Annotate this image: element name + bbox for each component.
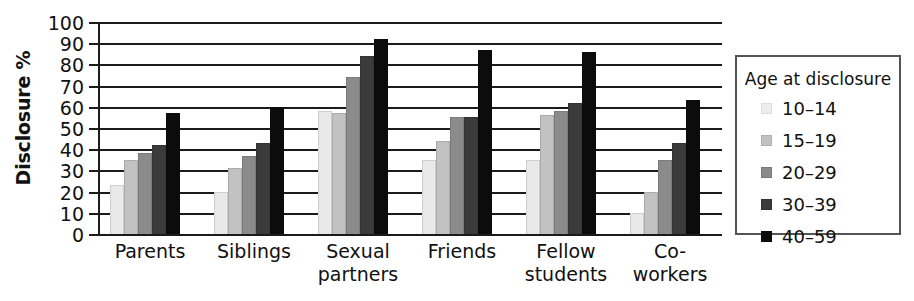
bar-group-bars	[110, 22, 180, 234]
bar-group	[306, 22, 410, 234]
bar	[464, 117, 478, 234]
bar-group-bars	[526, 22, 596, 234]
legend-entry: 40–59	[737, 226, 899, 247]
legend-entry-label: 30–39	[782, 194, 837, 215]
bar	[270, 107, 284, 234]
bar	[686, 100, 700, 234]
y-axis-tick-label: 60	[60, 97, 84, 119]
y-axis-tick-label: 100	[48, 12, 84, 34]
x-axis-label: Siblings	[202, 240, 306, 263]
legend-entry-label: 10–14	[782, 98, 837, 119]
bar-group-bars	[630, 22, 700, 234]
bar	[214, 192, 228, 234]
y-axis-title: Disclosure %	[12, 28, 34, 208]
bar-group-bars	[422, 22, 492, 234]
legend-entry-label: 15–19	[782, 130, 837, 151]
x-axis-label-line: Siblings	[202, 240, 306, 263]
bar	[630, 213, 644, 234]
bar	[256, 143, 270, 234]
bar-group	[98, 22, 202, 234]
bar-group-bars	[214, 22, 284, 234]
x-axis-label-line: Sexual	[306, 240, 410, 263]
bar-group	[202, 22, 306, 234]
bar	[436, 141, 450, 234]
bar	[152, 145, 166, 234]
bar	[346, 77, 360, 234]
bar-group	[514, 22, 618, 234]
legend-entries: 10–1415–1920–2930–3940–59	[737, 98, 899, 247]
x-axis-label: Parents	[98, 240, 202, 263]
x-axis-label: Fellowstudents	[514, 240, 618, 286]
bar	[422, 160, 436, 234]
legend-entry: 10–14	[737, 98, 899, 119]
gridline	[98, 234, 722, 236]
bar	[242, 156, 256, 234]
legend: Age at disclosure 10–1415–1920–2930–3940…	[735, 55, 901, 235]
bar	[138, 153, 152, 234]
legend-entry: 15–19	[737, 130, 899, 151]
bar	[360, 56, 374, 234]
bar-group-bars	[318, 22, 388, 234]
bar	[374, 39, 388, 234]
y-axis-tick-label: 0	[72, 224, 84, 246]
bar	[110, 185, 124, 234]
y-axis-tick: 60	[89, 107, 98, 109]
bar	[166, 113, 180, 234]
legend-swatch	[761, 103, 772, 114]
bar	[568, 103, 582, 234]
bar	[644, 192, 658, 234]
y-axis-tick-label: 90	[60, 33, 84, 55]
y-axis-tick-label: 50	[60, 118, 84, 140]
bar	[450, 117, 464, 234]
x-axis-label-line: Fellow	[514, 240, 618, 263]
y-axis-tick: 20	[89, 192, 98, 194]
legend-swatch	[761, 231, 772, 242]
chart-figure: Disclosure % 0102030405060708090100 Pare…	[0, 0, 914, 301]
y-axis-tick-label: 20	[60, 182, 84, 204]
plot-area: 0102030405060708090100	[98, 22, 722, 234]
y-axis-tick-label: 10	[60, 203, 84, 225]
legend-entry: 30–39	[737, 194, 899, 215]
y-axis-tick: 10	[89, 213, 98, 215]
legend-entry-label: 20–29	[782, 162, 837, 183]
legend-swatch	[761, 199, 772, 210]
bar	[332, 113, 346, 234]
y-axis-tick: 0	[89, 234, 98, 236]
bar	[554, 111, 568, 234]
y-axis-tick: 80	[89, 64, 98, 66]
bar	[526, 160, 540, 234]
x-axis-label: Sexualpartners	[306, 240, 410, 286]
y-axis-tick: 100	[89, 22, 98, 24]
bar-group	[618, 22, 722, 234]
bar	[478, 50, 492, 234]
bar	[124, 160, 138, 234]
y-axis-tick: 40	[89, 149, 98, 151]
bar	[540, 115, 554, 234]
bar	[318, 111, 332, 234]
y-axis-tick-label: 40	[60, 139, 84, 161]
legend-title: Age at disclosure	[737, 69, 899, 89]
y-axis-tick: 70	[89, 86, 98, 88]
y-axis-tick-label: 80	[60, 54, 84, 76]
legend-entry-label: 40–59	[782, 226, 837, 247]
bar	[658, 160, 672, 234]
x-axis-label-line: Co-workers	[618, 240, 722, 286]
y-axis-tick: 90	[89, 43, 98, 45]
x-axis-label: Friends	[410, 240, 514, 263]
legend-swatch	[761, 167, 772, 178]
bar	[672, 143, 686, 234]
y-axis-tick: 50	[89, 128, 98, 130]
x-axis-label-line: partners	[306, 263, 410, 286]
bar	[228, 168, 242, 234]
x-axis-label-line: Parents	[98, 240, 202, 263]
bar	[582, 52, 596, 234]
legend-swatch	[761, 135, 772, 146]
x-axis-label-line: students	[514, 263, 618, 286]
x-axis-label-line: Friends	[410, 240, 514, 263]
y-axis-tick: 30	[89, 170, 98, 172]
bar-group	[410, 22, 514, 234]
y-axis-tick-label: 70	[60, 76, 84, 98]
legend-entry: 20–29	[737, 162, 899, 183]
y-axis-tick-label: 30	[60, 160, 84, 182]
x-axis-label: Co-workers	[618, 240, 722, 286]
